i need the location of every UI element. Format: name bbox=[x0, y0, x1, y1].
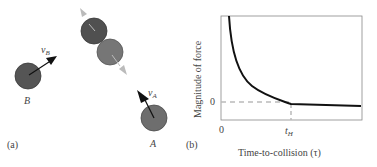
y-tick-zero: 0 bbox=[210, 96, 215, 107]
panel-a-label: (a) bbox=[7, 139, 18, 151]
velocity-b-label: vB bbox=[41, 44, 50, 57]
velocity-a-label: vA bbox=[148, 87, 157, 100]
agent-a-label: A bbox=[149, 138, 157, 149]
agent-b-label: B bbox=[24, 95, 30, 106]
panel-b: Magnitude of force 0 0 tH Time-to-collis… bbox=[186, 16, 362, 159]
agent-b: vB B bbox=[15, 44, 57, 106]
figure: vB B vA A (a) Magnitude of force bbox=[0, 0, 377, 167]
panel-a: vB B vA A (a) bbox=[7, 8, 167, 151]
panel-b-label: (b) bbox=[186, 139, 198, 151]
colliding-pair bbox=[80, 8, 127, 75]
repulsion-arrow-up-icon bbox=[80, 8, 87, 17]
x-tick-zero: 0 bbox=[219, 124, 224, 135]
x-axis-label: Time-to-collision (τ) bbox=[238, 147, 321, 159]
y-axis-label: Magnitude of force bbox=[192, 40, 203, 118]
repulsion-arrow-down-icon bbox=[119, 65, 127, 75]
force-curve bbox=[229, 16, 361, 106]
x-tick-tH: tH bbox=[285, 125, 294, 138]
agent-a: vA A bbox=[137, 87, 167, 149]
